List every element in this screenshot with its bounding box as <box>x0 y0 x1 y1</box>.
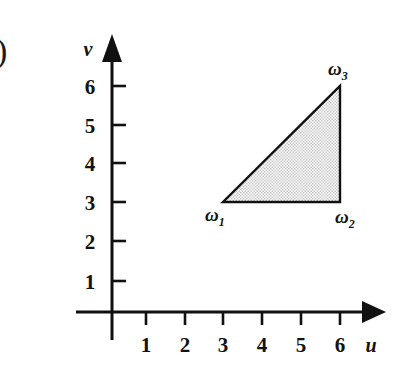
v-axis-arrow-icon <box>102 34 122 62</box>
vertex-label-omega-2-symbol: ω <box>335 206 349 227</box>
vertex-label-omega-1: ω1 <box>205 204 225 229</box>
u-tick-label-1: 1 <box>141 333 152 357</box>
v-axis-label: v <box>84 38 94 60</box>
vertex-label-omega-2: ω2 <box>335 206 355 231</box>
vertex-label-omega-3-subscript: 3 <box>341 69 348 83</box>
u-tick-label-2: 2 <box>180 333 191 357</box>
uv-plane-diagram: ) 6 5 4 3 2 1 1 2 3 4 5 <box>0 0 394 369</box>
v-tick-label-6: 6 <box>85 75 96 99</box>
vertex-label-omega-2-subscript: 2 <box>348 217 355 231</box>
v-tick-label-3: 3 <box>85 191 96 215</box>
vertex-label-omega-3-symbol: ω <box>328 58 342 79</box>
figure-container: ) 6 5 4 3 2 1 1 2 3 4 5 <box>0 0 394 369</box>
u-tick-label-3: 3 <box>218 333 229 357</box>
v-tick-label-2: 2 <box>85 230 96 254</box>
vertex-label-omega-3: ω3 <box>328 58 348 83</box>
u-axis-label: u <box>365 334 376 356</box>
v-tick-label-5: 5 <box>85 114 96 138</box>
u-tick-label-4: 4 <box>257 333 268 357</box>
v-tick-label-1: 1 <box>85 270 96 294</box>
u-tick-label-6: 6 <box>335 333 346 357</box>
u-tick-label-5: 5 <box>296 333 307 357</box>
vertex-label-omega-1-subscript: 1 <box>219 215 225 229</box>
v-tick-label-4: 4 <box>85 152 96 176</box>
panel-marker: ) <box>0 32 7 70</box>
u-axis-arrow-icon <box>362 301 386 323</box>
vertex-label-omega-1-symbol: ω <box>205 204 219 225</box>
